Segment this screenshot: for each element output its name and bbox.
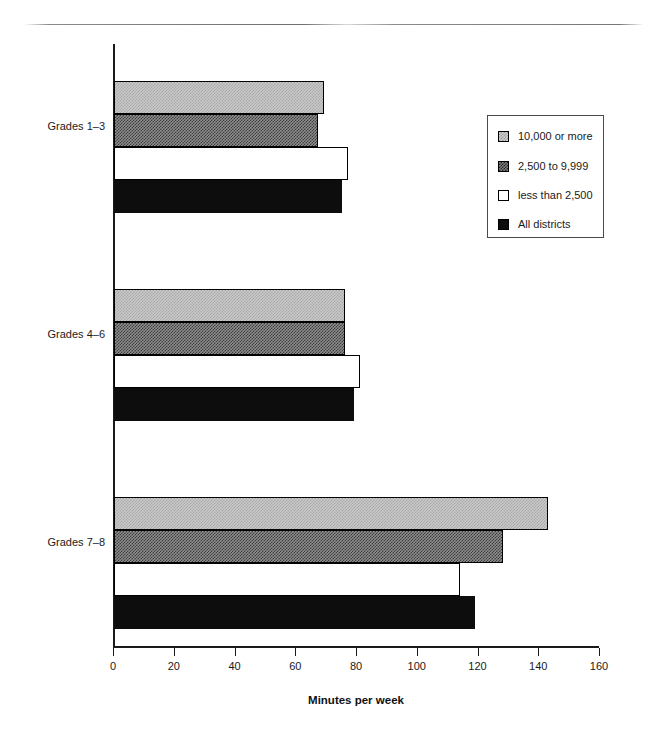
x-tick-mark: [417, 648, 418, 656]
x-tick-mark: [538, 648, 539, 656]
x-tick-mark: [295, 648, 296, 656]
x-tick-label: 40: [228, 660, 240, 672]
top-divider-rule: [24, 24, 644, 25]
legend-label-mid: 2,500 to 9,999: [518, 160, 588, 172]
legend-item-mid[interactable]: 2,500 to 9,999: [498, 160, 588, 172]
bar-chart-figure: Grades 1–3 Grades 4–6 Grades 7–8 0204060…: [0, 0, 667, 747]
black-swatch: [498, 219, 509, 230]
legend-item-large[interactable]: 10,000 or more: [498, 130, 593, 142]
bar-all-districts: [114, 388, 354, 421]
light-dither-swatch: [498, 131, 509, 142]
bar-10000-or-more: [114, 81, 324, 114]
legend-item-all[interactable]: All districts: [498, 218, 571, 230]
category-label-grades-4-6: Grades 4–6: [48, 328, 105, 340]
bar-less-than-2500: [114, 563, 460, 596]
x-tick-mark: [599, 648, 600, 656]
bar-10000-or-more: [114, 289, 345, 322]
category-axis-labels: Grades 1–3 Grades 4–6 Grades 7–8: [0, 44, 105, 648]
x-tick-mark: [113, 648, 114, 656]
x-tick-label: 160: [590, 660, 608, 672]
x-tick-label: 120: [468, 660, 486, 672]
bar-2500-to-9999: [114, 530, 503, 563]
x-tick-label: 60: [289, 660, 301, 672]
bar-all-districts: [114, 180, 342, 213]
x-tick-label: 80: [350, 660, 362, 672]
x-axis-title: Minutes per week: [113, 694, 599, 706]
x-tick-label: 140: [529, 660, 547, 672]
bar-all-districts: [114, 596, 475, 629]
legend-label-large: 10,000 or more: [518, 130, 593, 142]
bar-10000-or-more: [114, 497, 548, 530]
legend-label-all: All districts: [518, 218, 571, 230]
x-tick-label: 0: [110, 660, 116, 672]
legend-item-small[interactable]: less than 2,500: [498, 189, 593, 201]
dark-dither-swatch: [498, 161, 509, 172]
x-tick-label: 20: [168, 660, 180, 672]
bar-less-than-2500: [114, 147, 348, 180]
white-swatch: [498, 190, 509, 201]
bar-2500-to-9999: [114, 322, 345, 355]
chart-legend: 10,000 or more 2,500 to 9,999 less than …: [487, 115, 604, 238]
x-tick-label: 100: [408, 660, 426, 672]
category-label-grades-1-3: Grades 1–3: [48, 120, 105, 132]
category-label-grades-7-8: Grades 7–8: [48, 536, 105, 548]
x-tick-mark: [356, 648, 357, 656]
x-tick-mark: [235, 648, 236, 656]
x-tick-mark: [174, 648, 175, 656]
bar-2500-to-9999: [114, 114, 318, 147]
x-tick-mark: [478, 648, 479, 656]
bar-less-than-2500: [114, 355, 360, 388]
legend-label-small: less than 2,500: [518, 189, 593, 201]
